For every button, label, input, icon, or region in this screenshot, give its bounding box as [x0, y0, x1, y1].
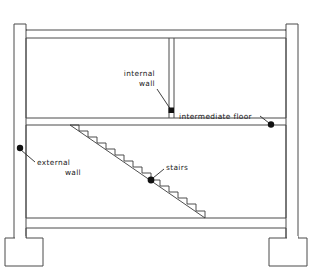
left-footing-block	[5, 238, 43, 266]
left-parapet-inner	[26, 24, 27, 30]
building-section-diagram: internal wall intermediate floor externa…	[0, 0, 312, 276]
section-drawing: internal wall intermediate floor externa…	[0, 0, 312, 276]
external-wall-right	[285, 24, 298, 238]
external-wall-label-line1: external	[37, 158, 70, 167]
stairs-label: stairs	[166, 163, 188, 172]
internal-wall-marker-icon	[169, 108, 175, 114]
internal-wall-label-line2: wall	[139, 79, 155, 88]
intermediate-floor-leader-line	[260, 116, 269, 123]
external-wall-label-line2: wall	[65, 168, 81, 177]
roof-slab	[26, 30, 286, 38]
right-footing-block	[269, 238, 307, 266]
annotation-stairs: stairs	[148, 163, 189, 183]
right-footing-gap-mask	[287, 236, 298, 240]
footing-right	[269, 236, 307, 266]
stairs-leader-line	[153, 169, 164, 178]
external-wall-leader-line	[21, 150, 35, 162]
external-wall-left	[14, 24, 27, 238]
upper-storey-rooms	[26, 38, 286, 118]
stairs-marker-icon	[148, 177, 155, 184]
internal-wall	[169, 38, 174, 118]
ground-floor-slab	[26, 218, 286, 238]
annotation-internal-wall: internal wall	[124, 69, 174, 113]
intermediate-floor-marker-icon	[268, 121, 274, 127]
intermediate-floor-label: intermediate floor	[179, 112, 253, 121]
right-parapet-inner	[285, 24, 286, 30]
left-footing-gap-mask	[15, 236, 26, 240]
footing-left	[5, 236, 43, 266]
external-wall-marker-icon	[17, 145, 23, 151]
internal-wall-label-line1: internal	[124, 69, 155, 78]
